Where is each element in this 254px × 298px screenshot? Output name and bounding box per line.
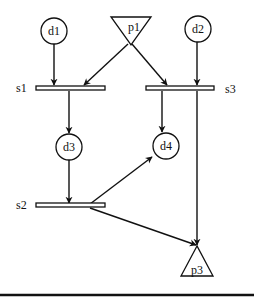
edge-s2-d4: [90, 157, 152, 204]
edge-s2-p3: [90, 208, 196, 245]
edge-p1-s3: [132, 44, 167, 85]
label-d4: d4: [160, 139, 172, 153]
node-s2: [36, 203, 105, 207]
edge-p1-s1: [84, 44, 128, 85]
node-s3: [146, 86, 214, 90]
label-s3: s3: [225, 82, 236, 96]
label-d1: d1: [48, 24, 60, 38]
petri-net-diagram: d1 d2 d3 d4 p1 p3 s1 s3 s2: [0, 0, 254, 298]
label-s1: s1: [16, 81, 27, 95]
node-s1: [36, 86, 105, 90]
label-d2: d2: [192, 22, 204, 36]
label-p1: p1: [128, 20, 140, 34]
label-s2: s2: [16, 198, 27, 212]
label-d3: d3: [63, 140, 75, 154]
label-p3: p3: [191, 263, 203, 277]
